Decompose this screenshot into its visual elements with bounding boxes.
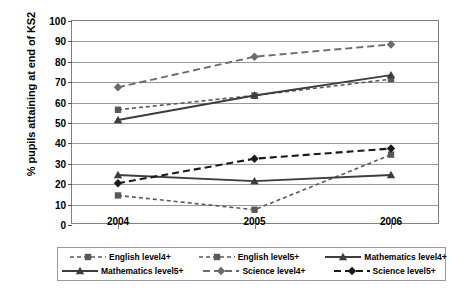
legend-item-english-level5-[interactable]: English level5+ — [197, 251, 300, 263]
y-tick-label: 20 — [55, 179, 66, 190]
legend-row-2: Mathematics level5+Science level4+Scienc… — [60, 264, 443, 278]
data-point-marker — [213, 254, 219, 260]
x-tick-mark — [391, 224, 392, 229]
data-point-marker — [250, 53, 258, 61]
data-point-marker — [387, 40, 395, 48]
legend-label: English level4+ — [109, 252, 171, 262]
y-tick-label: 60 — [55, 97, 66, 108]
chart-page: % pupils attaining at end of KS2 0102030… — [0, 0, 455, 291]
data-point-marker — [250, 155, 258, 163]
legend-swatch — [323, 251, 363, 263]
y-tick-label: 90 — [55, 36, 66, 47]
series-mathematics-level5- — [114, 171, 395, 185]
legend-item-mathematics-level5-[interactable]: Mathematics level5+ — [60, 265, 183, 277]
y-axis-title: % pupils attaining at end of KS2 — [25, 0, 37, 199]
legend-row-1: English level4+English level5+Mathematic… — [60, 250, 443, 264]
data-point-marker — [115, 107, 121, 113]
legend-label: English level5+ — [238, 252, 300, 262]
legend-swatch — [201, 265, 241, 277]
x-tick-mark — [118, 224, 119, 229]
y-tick-label: 100 — [49, 16, 66, 27]
y-tick-label: 50 — [55, 118, 66, 129]
x-tick-mark — [255, 224, 256, 229]
legend-item-science-level4-[interactable]: Science level4+ — [201, 265, 305, 277]
y-tick-label: 30 — [55, 158, 66, 169]
y-tick-label: 10 — [55, 199, 66, 210]
data-series-layer — [71, 20, 439, 224]
legend-item-science-level5-[interactable]: Science level5+ — [332, 265, 436, 277]
legend-swatch — [197, 251, 237, 263]
legend-swatch — [60, 265, 100, 277]
legend-item-english-level4-[interactable]: English level4+ — [68, 251, 171, 263]
data-point-marker — [217, 267, 225, 275]
legend-label: Science level5+ — [373, 266, 436, 276]
y-tick-mark — [68, 225, 72, 226]
data-point-marker — [114, 83, 122, 91]
legend-item-mathematics-level4-[interactable]: Mathematics level4+ — [323, 251, 446, 263]
data-point-marker — [251, 207, 257, 213]
y-tick-label: 0 — [60, 220, 66, 231]
legend-label: Mathematics level5+ — [101, 266, 183, 276]
data-point-marker — [114, 179, 122, 187]
data-point-marker — [347, 267, 355, 275]
legend-swatch — [68, 251, 108, 263]
y-tick-label: 70 — [55, 77, 66, 88]
data-point-marker — [115, 192, 121, 198]
chart-legend: English level4+English level5+Mathematic… — [57, 247, 446, 281]
y-tick-label: 40 — [55, 138, 66, 149]
y-tick-label: 80 — [55, 56, 66, 67]
series-science-level4- — [114, 40, 395, 91]
legend-label: Mathematics level4+ — [364, 252, 446, 262]
legend-swatch — [332, 265, 372, 277]
data-point-marker — [85, 254, 91, 260]
legend-label: Science level4+ — [242, 266, 305, 276]
